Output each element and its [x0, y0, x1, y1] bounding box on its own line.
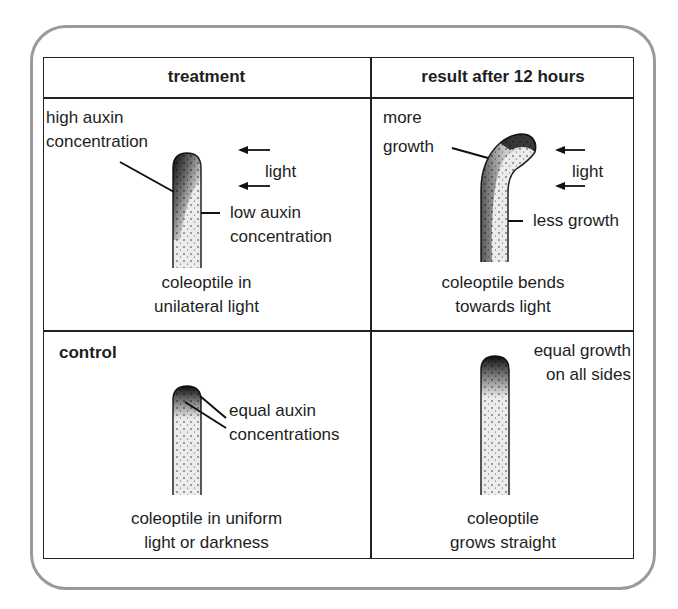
label-low-auxin-line2: concentration: [230, 226, 332, 248]
label-equal-auxin-line1: equal auxin: [229, 400, 316, 422]
coleoptile-control-treatment: [173, 386, 226, 495]
label-high-auxin-line2: concentration: [46, 131, 148, 153]
label-more-growth-line1: more: [383, 107, 422, 129]
label-high-auxin-line1: high auxin: [46, 107, 124, 129]
label-light-treatment: light: [265, 161, 296, 183]
label-equal-growth-line1: equal growth: [500, 340, 631, 362]
caption-uniform-line2: light or darkness: [43, 532, 370, 554]
label-control: control: [59, 342, 117, 364]
caption-unilateral-line1: coleoptile in: [43, 272, 370, 294]
label-equal-growth-line2: on all sides: [500, 364, 631, 386]
label-equal-auxin-line2: concentrations: [229, 424, 340, 446]
caption-bends-line1: coleoptile bends: [372, 272, 634, 294]
caption-unilateral-line2: unilateral light: [43, 296, 370, 318]
caption-straight-line1: coleoptile: [372, 508, 634, 530]
coleoptile-bending-result: [452, 134, 585, 262]
caption-straight-line2: grows straight: [372, 532, 634, 554]
label-low-auxin-line1: low auxin: [230, 202, 301, 224]
label-light-result: light: [572, 161, 603, 183]
caption-uniform-line1: coleoptile in uniform: [43, 508, 370, 530]
label-more-growth-line2: growth: [383, 136, 434, 158]
label-less-growth: less growth: [533, 210, 619, 232]
caption-bends-line2: towards light: [372, 296, 634, 318]
